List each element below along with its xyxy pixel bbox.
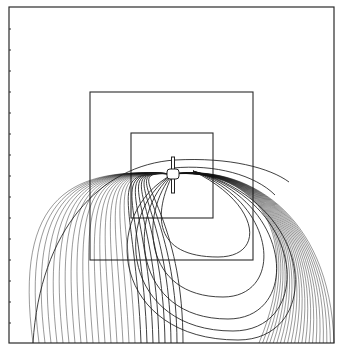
trajectory-right (173, 173, 283, 343)
trajectory-left (35, 173, 173, 343)
trajectory-left (59, 173, 173, 343)
trajectory-right (173, 173, 290, 343)
central-object (167, 157, 179, 193)
trajectory-diagram (0, 0, 346, 348)
trajectory-loop (127, 171, 295, 340)
trajectory-left (132, 173, 173, 343)
trajectory-left (41, 173, 173, 343)
trajectory-curves (29, 160, 334, 343)
diagram-canvas (0, 0, 346, 348)
trajectory-right (173, 173, 302, 343)
body (167, 169, 179, 179)
